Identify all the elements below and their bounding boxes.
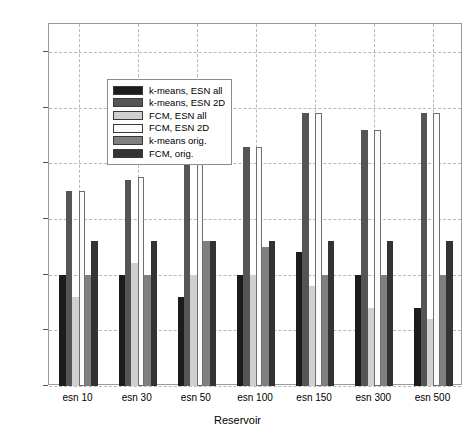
- y-tick-mark-80: [43, 107, 48, 108]
- plot-area: k-means, ESN allk-means, ESN 2DFCM, ESN …: [48, 23, 462, 385]
- legend-item: k-means orig.: [113, 134, 225, 147]
- bar: [210, 241, 216, 386]
- y-tick-mark-50: [43, 274, 48, 275]
- legend-item: FCM, orig.: [113, 147, 225, 160]
- legend-swatch: [113, 149, 143, 158]
- gridline-y-30: [49, 386, 461, 387]
- legend-label: k-means, ESN all: [149, 86, 222, 96]
- y-tick-mark-60: [43, 218, 48, 219]
- legend-swatch: [113, 124, 143, 133]
- legend-label: k-means orig.: [149, 136, 207, 146]
- bar-chart-figure: Accuracy Reservoir k-means, ESN allk-mea…: [0, 0, 475, 440]
- legend-item: FCM, ESN 2D: [113, 122, 225, 135]
- bar: [151, 241, 157, 386]
- bar: [446, 241, 452, 386]
- bar: [269, 241, 275, 386]
- bar: [91, 241, 97, 386]
- y-tick-mark-40: [43, 329, 48, 330]
- y-tick-mark-70: [43, 162, 48, 163]
- x-tick-label-6: esn 500: [397, 392, 467, 403]
- legend-item: FCM, ESN all: [113, 109, 225, 122]
- chart-legend: k-means, ESN allk-means, ESN 2DFCM, ESN …: [107, 79, 232, 165]
- legend-label: FCM, ESN 2D: [149, 123, 209, 133]
- bar: [328, 241, 334, 386]
- y-tick-mark-30: [43, 385, 48, 386]
- legend-swatch: [113, 98, 143, 107]
- gridline-y-90: [49, 52, 461, 53]
- bar: [387, 241, 393, 386]
- legend-swatch: [113, 111, 143, 120]
- legend-swatch: [113, 136, 143, 145]
- y-tick-mark-90: [43, 51, 48, 52]
- legend-label: FCM, ESN all: [149, 111, 207, 121]
- legend-item: k-means, ESN 2D: [113, 97, 225, 110]
- legend-item: k-means, ESN all: [113, 84, 225, 97]
- legend-label: FCM, orig.: [149, 149, 193, 159]
- x-axis-label: Reservoir: [214, 414, 261, 426]
- legend-swatch: [113, 86, 143, 95]
- gridline-y-60: [49, 219, 461, 220]
- legend-label: k-means, ESN 2D: [149, 98, 225, 108]
